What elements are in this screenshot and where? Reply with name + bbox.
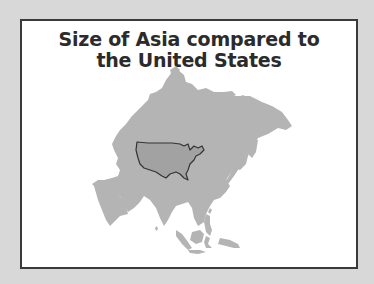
sri-lanka	[155, 226, 158, 231]
java	[188, 250, 206, 254]
philippines	[204, 214, 212, 236]
taiwan	[208, 208, 212, 214]
sumatra	[176, 230, 192, 250]
sulawesi	[204, 236, 212, 248]
new-guinea	[218, 238, 240, 248]
borneo	[190, 230, 204, 244]
asia-map	[0, 0, 374, 284]
